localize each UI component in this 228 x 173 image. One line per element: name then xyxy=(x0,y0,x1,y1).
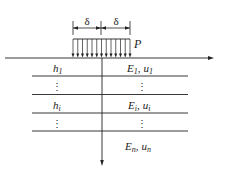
ellipsis-left-1: ⋮ xyxy=(52,81,62,92)
delta-left-label: δ xyxy=(84,15,89,27)
load-label-P: P xyxy=(133,37,142,51)
svg-text:h1: h1 xyxy=(53,62,63,76)
layer-n-labels: En,un xyxy=(124,140,151,154)
delta-right-label: δ xyxy=(113,15,118,27)
surface-axis xyxy=(5,56,214,60)
svg-text:En,un: En,un xyxy=(124,140,151,154)
dimension-line xyxy=(73,21,130,35)
ellipsis-right-2: ⋮ xyxy=(137,118,147,129)
distributed-load xyxy=(72,39,132,58)
svg-text:hi: hi xyxy=(53,99,61,113)
svg-text:E1,u1: E1,u1 xyxy=(126,62,153,76)
ellipsis-left-2: ⋮ xyxy=(52,118,62,129)
layered-system-diagram: δ δ xyxy=(0,0,228,173)
ellipsis-right-1: ⋮ xyxy=(137,81,147,92)
layer-1-labels: h1 E1,u1 xyxy=(53,62,153,76)
depth-axis xyxy=(100,58,104,166)
svg-text:Ei,ui: Ei,ui xyxy=(127,99,150,113)
